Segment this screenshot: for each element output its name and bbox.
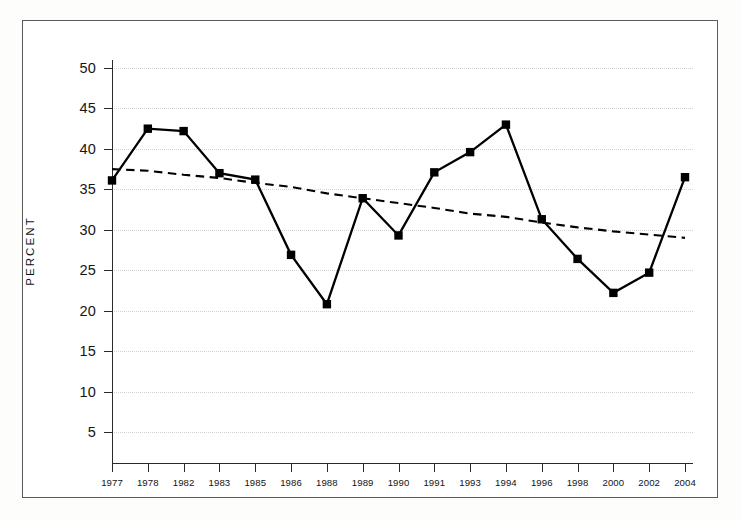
chart-figure: PERCENT 5101520253035404550 197719781982…: [0, 0, 741, 521]
data-point-marker: [645, 268, 653, 276]
data-point-marker: [144, 124, 152, 132]
x-tick-label: 1988: [316, 477, 338, 488]
data-point-marker: [215, 169, 223, 177]
x-tick-label: 2004: [674, 477, 696, 488]
x-tick-label: 1983: [209, 477, 231, 488]
y-tick-label: 5: [88, 424, 96, 440]
y-tick-label: 10: [79, 384, 96, 400]
y-tick-label: 45: [79, 100, 96, 116]
data-point-marker: [108, 176, 116, 184]
data-point-marker: [323, 300, 331, 308]
x-tick: [219, 463, 220, 472]
x-tick: [613, 463, 614, 472]
x-tick: [506, 463, 507, 472]
y-tick-label: 35: [79, 181, 96, 197]
y-axis-title: PERCENT: [24, 216, 36, 286]
x-tick-label: 1985: [244, 477, 266, 488]
plot-area: 5101520253035404550 19771978198219831985…: [104, 60, 693, 463]
x-tick-label: 1990: [388, 477, 410, 488]
x-tick: [327, 463, 328, 472]
data-point-marker: [251, 175, 259, 183]
y-tick-label: 25: [79, 262, 96, 278]
y-tick-label: 40: [79, 141, 96, 157]
x-tick-label: 1978: [137, 477, 159, 488]
data-point-marker: [681, 173, 689, 181]
x-tick-label: 1989: [352, 477, 374, 488]
x-tick-label: 1998: [567, 477, 589, 488]
y-tick-label: 20: [79, 303, 96, 319]
x-tick-label: 2000: [603, 477, 625, 488]
trend-line-dashed: [112, 169, 685, 238]
y-tick-label: 30: [79, 222, 96, 238]
x-tick: [434, 463, 435, 472]
x-tick: [578, 463, 579, 472]
y-tick-label: 15: [79, 343, 96, 359]
x-tick-label: 1994: [495, 477, 517, 488]
data-point-marker: [430, 168, 438, 176]
x-tick: [542, 463, 543, 472]
data-point-markers: [108, 120, 689, 308]
x-tick-label: 1977: [101, 477, 123, 488]
data-point-marker: [609, 289, 617, 297]
data-point-marker: [179, 127, 187, 135]
y-tick-label: 50: [79, 60, 96, 76]
series-layer: [104, 60, 693, 463]
x-tick-label: 1993: [459, 477, 481, 488]
x-tick-label: 1986: [280, 477, 302, 488]
data-point-marker: [502, 120, 510, 128]
x-tick: [148, 463, 149, 472]
data-point-marker: [394, 231, 402, 239]
x-tick-label: 1982: [173, 477, 195, 488]
x-tick: [649, 463, 650, 472]
x-tick: [470, 463, 471, 472]
x-tick: [255, 463, 256, 472]
data-point-marker: [466, 148, 474, 156]
x-tick: [399, 463, 400, 472]
data-line-solid: [112, 125, 685, 305]
x-tick-label: 1996: [531, 477, 553, 488]
data-point-marker: [538, 215, 546, 223]
x-tick: [184, 463, 185, 472]
data-point-marker: [573, 255, 581, 263]
x-tick: [685, 463, 686, 472]
data-point-marker: [287, 251, 295, 259]
x-axis-line: [112, 463, 693, 464]
x-tick: [363, 463, 364, 472]
data-point-marker: [358, 194, 366, 202]
x-tick-label: 1991: [423, 477, 445, 488]
x-tick: [291, 463, 292, 472]
x-tick: [112, 463, 113, 472]
x-tick-label: 2002: [638, 477, 660, 488]
